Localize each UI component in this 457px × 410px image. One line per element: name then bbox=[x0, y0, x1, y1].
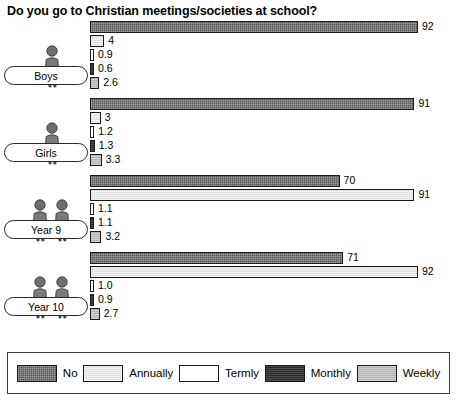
bar-value-label: 4 bbox=[108, 33, 114, 47]
bar-value-label: 92 bbox=[422, 19, 434, 33]
bar-value-label: 1.0 bbox=[98, 278, 113, 292]
legend-entry[interactable]: No bbox=[17, 365, 78, 382]
bar-weekly[interactable] bbox=[90, 154, 102, 166]
chart-legend: NoAnnuallyTermlyMonthlyWeekly bbox=[7, 352, 450, 394]
legend-swatch-no bbox=[17, 365, 57, 382]
bar-row: 2.6 bbox=[90, 76, 457, 90]
bar-row: 71 bbox=[90, 251, 457, 265]
bar-row: 91 bbox=[90, 188, 457, 202]
chart-group: 9240.90.62.6Boys bbox=[0, 20, 457, 97]
bar-value-label: 0.9 bbox=[98, 47, 113, 61]
legend-label: No bbox=[63, 367, 78, 379]
bar-row: 92 bbox=[90, 20, 457, 34]
bar-annually[interactable] bbox=[90, 266, 418, 278]
bar-row: 1.1 bbox=[90, 202, 457, 216]
bar-value-label: 2.7 bbox=[104, 306, 119, 320]
legend-swatch-annually bbox=[83, 365, 123, 382]
legend-label: Annually bbox=[129, 367, 173, 379]
legend-label: Weekly bbox=[403, 367, 441, 379]
category-label: Girls bbox=[4, 116, 90, 174]
bar-weekly[interactable] bbox=[90, 231, 101, 243]
bar-value-label: 1.1 bbox=[98, 201, 113, 215]
bar-row: 1.0 bbox=[90, 279, 457, 293]
category-pill-label: Year 9 bbox=[5, 224, 87, 236]
bar-weekly[interactable] bbox=[90, 77, 99, 89]
bar-value-label: 3.3 bbox=[106, 152, 121, 166]
bar-monthly[interactable] bbox=[90, 63, 94, 75]
bar-value-label: 0.6 bbox=[98, 61, 113, 75]
legend-swatch-termly bbox=[179, 365, 219, 382]
legend-label: Termly bbox=[225, 367, 259, 379]
bar-row: 2.7 bbox=[90, 307, 457, 321]
legend-entry[interactable]: Annually bbox=[83, 365, 173, 382]
bar-termly[interactable] bbox=[90, 203, 94, 215]
bar-value-label: 1.1 bbox=[98, 215, 113, 229]
category-pill-label: Year 10 bbox=[5, 301, 87, 313]
plot-area: 9240.90.62.6Boys9131.21.33.3Girls70911.1… bbox=[0, 20, 457, 342]
chart-group: 71921.00.92.7Year 10 bbox=[0, 251, 457, 328]
bar-row: 1.1 bbox=[90, 216, 457, 230]
bar-row: 92 bbox=[90, 265, 457, 279]
category-pill[interactable]: Boys bbox=[4, 66, 88, 85]
bar-monthly[interactable] bbox=[90, 294, 94, 306]
chart-group: 70911.11.13.2Year 9 bbox=[0, 174, 457, 251]
bar-row: 3 bbox=[90, 111, 457, 125]
bar-value-label: 91 bbox=[418, 187, 430, 201]
bar-annually[interactable] bbox=[90, 112, 101, 124]
bar-row: 0.6 bbox=[90, 62, 457, 76]
bar-value-label: 91 bbox=[418, 96, 430, 110]
bar-row: 91 bbox=[90, 97, 457, 111]
category-pill[interactable]: Year 10 bbox=[4, 297, 88, 316]
bar-row: 4 bbox=[90, 34, 457, 48]
legend-entry[interactable]: Monthly bbox=[265, 365, 351, 382]
bar-no[interactable] bbox=[90, 175, 340, 187]
bar-row: 3.3 bbox=[90, 153, 457, 167]
bar-no[interactable] bbox=[90, 98, 414, 110]
bar-no[interactable] bbox=[90, 252, 343, 264]
legend-entry[interactable]: Weekly bbox=[357, 365, 441, 382]
bar-row: 70 bbox=[90, 174, 457, 188]
category-label: Year 9 bbox=[4, 193, 90, 251]
bar-monthly[interactable] bbox=[90, 217, 94, 229]
bar-value-label: 2.6 bbox=[103, 75, 118, 89]
bar-row: 0.9 bbox=[90, 293, 457, 307]
category-pill-label: Girls bbox=[5, 147, 87, 159]
bar-value-label: 1.3 bbox=[99, 138, 114, 152]
bar-value-label: 70 bbox=[344, 173, 356, 187]
bar-value-label: 3.2 bbox=[105, 229, 120, 243]
legend-swatch-monthly bbox=[265, 365, 305, 382]
bar-value-label: 92 bbox=[422, 264, 434, 278]
bar-monthly[interactable] bbox=[90, 140, 95, 152]
chart-group: 9131.21.33.3Girls bbox=[0, 97, 457, 174]
bar-value-label: 1.2 bbox=[98, 124, 113, 138]
bar-row: 0.9 bbox=[90, 48, 457, 62]
legend-entry[interactable]: Termly bbox=[179, 365, 259, 382]
bar-row: 1.2 bbox=[90, 125, 457, 139]
chart-container: Do you go to Christian meetings/societie… bbox=[0, 0, 457, 410]
bar-value-label: 3 bbox=[105, 110, 111, 124]
category-label: Boys bbox=[4, 39, 90, 97]
bar-value-label: 0.9 bbox=[98, 292, 113, 306]
legend-swatch-weekly bbox=[357, 365, 397, 382]
bar-termly[interactable] bbox=[90, 49, 94, 61]
bar-termly[interactable] bbox=[90, 280, 94, 292]
category-pill-label: Boys bbox=[5, 70, 87, 82]
bar-row: 3.2 bbox=[90, 230, 457, 244]
category-label: Year 10 bbox=[4, 270, 90, 328]
bar-row: 1.3 bbox=[90, 139, 457, 153]
category-pill[interactable]: Girls bbox=[4, 143, 88, 162]
bar-weekly[interactable] bbox=[90, 308, 100, 320]
category-pill[interactable]: Year 9 bbox=[4, 220, 88, 239]
bar-no[interactable] bbox=[90, 21, 418, 33]
bar-termly[interactable] bbox=[90, 126, 94, 138]
chart-title: Do you go to Christian meetings/societie… bbox=[7, 4, 317, 18]
bar-annually[interactable] bbox=[90, 35, 104, 47]
bar-value-label: 71 bbox=[347, 250, 359, 264]
bar-annually[interactable] bbox=[90, 189, 414, 201]
legend-label: Monthly bbox=[311, 367, 351, 379]
